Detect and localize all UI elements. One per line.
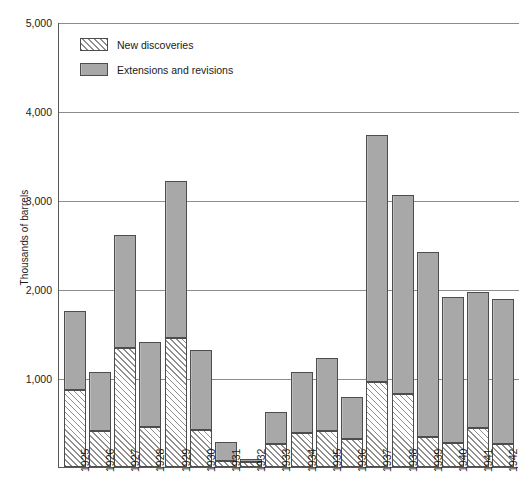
x-tick-label-1926: 1926 — [104, 424, 116, 472]
y-axis-tick-labels: 1,0002,0003,0004,0005,000 — [8, 0, 52, 504]
x-tick-label-1935: 1935 — [331, 424, 343, 472]
y-tick-label: 5,000 — [10, 17, 52, 29]
hatched-swatch-icon — [80, 38, 108, 51]
x-tick-label-1941: 1941 — [482, 424, 494, 472]
bar-segment-extensions-and-revisions — [392, 195, 414, 394]
x-tick-label-1927: 1927 — [129, 424, 141, 472]
bar-segment-extensions-and-revisions — [316, 358, 338, 431]
bar-segment-extensions-and-revisions — [89, 372, 111, 432]
legend-item-new-discoveries: New discoveries — [80, 35, 300, 54]
x-tick-label-1932: 1932 — [255, 424, 267, 472]
y-tick-label: 2,000 — [10, 284, 52, 296]
bar-segment-extensions-and-revisions — [139, 342, 161, 427]
gridline-4000 — [59, 112, 519, 113]
bar-segment-extensions-and-revisions — [467, 292, 489, 428]
legend-item-extensions-and-revisions: Extensions and revisions — [80, 60, 300, 79]
x-tick-label-1928: 1928 — [154, 424, 166, 472]
figure-caption — [80, 496, 460, 504]
gray-swatch-icon — [80, 63, 108, 76]
x-tick-label-1929: 1929 — [180, 424, 192, 472]
gridline-5000 — [59, 23, 519, 24]
bar-segment-extensions-and-revisions — [442, 297, 464, 443]
y-tick-label: 1,000 — [10, 373, 52, 385]
x-tick-label-1938: 1938 — [407, 424, 419, 472]
x-tick-label-1930: 1930 — [205, 424, 217, 472]
bar-segment-extensions-and-revisions — [492, 299, 514, 444]
x-tick-label-1939: 1939 — [432, 424, 444, 472]
x-tick-label-1942: 1942 — [507, 424, 519, 472]
bar-segment-extensions-and-revisions — [366, 135, 388, 382]
plot-area — [58, 23, 518, 468]
bar-1937 — [366, 135, 388, 467]
y-tick-label: 3,000 — [10, 195, 52, 207]
x-tick-label-1933: 1933 — [280, 424, 292, 472]
x-tick-label-1934: 1934 — [306, 424, 318, 472]
x-tick-label-1937: 1937 — [381, 424, 393, 472]
legend-label-extensions-and-revisions: Extensions and revisions — [117, 64, 233, 76]
y-tick-label: 4,000 — [10, 106, 52, 118]
bar-segment-extensions-and-revisions — [417, 252, 439, 437]
oil-reserves-stacked-bar-chart: Thousands of barrels 1,0002,0003,0004,00… — [0, 0, 532, 504]
bar-segment-extensions-and-revisions — [190, 350, 212, 429]
bar-segment-extensions-and-revisions — [165, 181, 187, 338]
legend-label-new-discoveries: New discoveries — [117, 39, 193, 51]
x-tick-label-1940: 1940 — [457, 424, 469, 472]
gridline-3000 — [59, 201, 519, 202]
x-tick-label-1925: 1925 — [79, 424, 91, 472]
bar-segment-extensions-and-revisions — [64, 311, 86, 389]
bar-segment-extensions-and-revisions — [114, 235, 136, 348]
chart-legend: New discoveries Extensions and revisions — [80, 35, 300, 85]
x-tick-label-1931: 1931 — [230, 424, 242, 472]
x-tick-label-1936: 1936 — [356, 424, 368, 472]
